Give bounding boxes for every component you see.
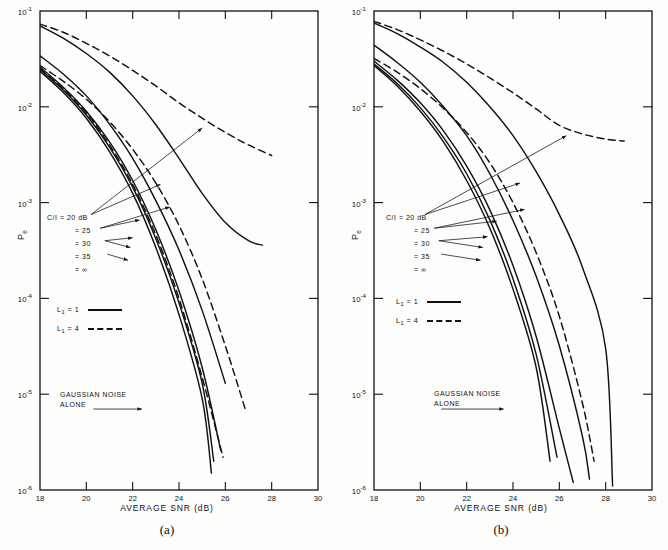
x-tick-label-2: 22 [123,494,143,503]
ci-label-4: = ∞ [75,266,88,273]
x-tick-label-2: 22 [457,494,477,503]
plot-canvas [0,0,334,550]
leader-arrow-2 [434,209,524,228]
ci-label-3: = 35 [75,253,91,260]
plot-canvas [334,0,668,550]
y-tick-label-1: 10-2 [6,101,32,113]
curve-1 [374,21,624,141]
leader-arrow-6 [107,254,128,260]
legend-swatch-solid [427,301,461,303]
legend-swatch-dashed [427,320,461,322]
legend-swatch-solid [88,309,122,311]
x-tick-label-4: 26 [549,494,569,503]
legend-row-1: L1 = 4 [57,324,122,334]
leader-arrow-5 [439,241,483,248]
legend-row-1: L1 = 4 [396,316,461,326]
y-tick-label-1: 10-2 [340,101,366,113]
gaussian-noise-note: GAUSSIAN NOISEALONE [60,390,127,410]
x-tick-label-1: 20 [76,494,96,503]
leader-arrow-2 [100,207,170,228]
y-tick-label-2: 10-3 [6,197,32,209]
x-tick-label-1: 20 [410,494,430,503]
x-axis-label: AVERAGE SNR (dB) [334,503,668,513]
curve-1 [40,24,272,155]
ci-label-title: C/I = 20 dB [47,214,88,221]
ci-label-title: C/I = 20 dB [386,214,427,221]
ci-label-2: = 30 [75,240,91,247]
x-tick-label-3: 24 [503,494,523,503]
y-tick-label-3: 10-4 [6,292,32,304]
y-tick-label-5: 10-6 [6,484,32,496]
panel-caption: (b) [334,522,668,538]
y-tick-label-4: 10-5 [6,388,32,400]
x-tick-label-6: 30 [308,494,328,503]
legend-row-0: L1 = 1 [57,305,122,315]
x-axis-label: AVERAGE SNR (dB) [0,503,334,513]
ci-label-2: = 30 [414,240,430,247]
ci-label-1: = 25 [75,227,91,234]
chart-panel-b: 10-110-210-310-410-510-618202224262830Pe… [334,0,668,550]
legend-label-1: L1 = 4 [396,316,418,325]
y-tick-label-0: 10-1 [6,5,32,17]
y-tick-label-3: 10-4 [340,292,366,304]
y-axis-label: Pe [350,230,362,240]
leader-arrow-3 [100,220,139,228]
x-tick-label-5: 28 [262,494,282,503]
x-tick-label-5: 28 [596,494,616,503]
legend-label-1: L1 = 4 [57,324,79,333]
leader-arrow-4 [439,237,488,241]
y-tick-label-0: 10-1 [340,5,366,17]
figure-root: 10-110-210-310-410-510-618202224262830Pe… [0,0,668,550]
legend-label-0: L1 = 1 [57,305,79,314]
x-tick-label-0: 18 [364,494,384,503]
legend-swatch-dashed [88,328,122,330]
leader-arrow-5 [105,241,130,248]
curve-2 [374,45,589,479]
leader-arrow-0 [425,136,566,215]
legend-label-0: L1 = 1 [396,297,418,306]
y-tick-label-4: 10-5 [340,388,366,400]
y-tick-label-2: 10-3 [340,197,366,209]
x-tick-label-4: 26 [215,494,235,503]
leader-arrow-0 [91,128,202,215]
y-tick-label-5: 10-6 [340,484,366,496]
leader-arrow-1 [91,184,160,214]
ci-label-4: = ∞ [414,266,427,273]
x-tick-label-6: 30 [642,494,662,503]
gaussian-noise-note: GAUSSIAN NOISEALONE [434,389,501,409]
panel-caption: (a) [0,522,334,538]
leader-arrow-6 [441,254,480,260]
y-axis-label: Pe [16,230,28,240]
legend-row-0: L1 = 1 [396,297,461,307]
ci-label-1: = 25 [414,227,430,234]
chart-panel-a: 10-110-210-310-410-510-618202224262830Pe… [0,0,334,550]
x-tick-label-3: 24 [169,494,189,503]
curve-6 [40,71,211,473]
curve-0 [40,26,262,245]
curve-3 [40,65,246,412]
x-tick-label-0: 18 [30,494,50,503]
leader-arrow-3 [434,221,497,228]
ci-label-3: = 35 [414,253,430,260]
leader-arrow-4 [105,238,133,241]
